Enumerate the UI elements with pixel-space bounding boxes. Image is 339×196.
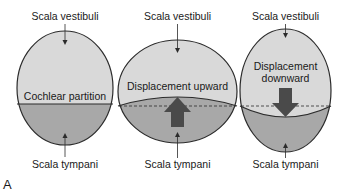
scala-tympani-label: Scala tympani — [253, 158, 319, 170]
panel-resting: Scala vestibuli Cochlear partition Scala… — [0, 0, 120, 170]
panel-displacement-upward: Scala vestibuli Displacement upward Scal… — [110, 0, 245, 196]
cochlear-partition-diagram: Scala vestibuli Cochlear partition Scala… — [0, 0, 339, 196]
displacement-downward-label-line1: Displacement — [254, 60, 318, 72]
scala-tympani-label: Scala tympani — [145, 158, 211, 170]
scala-tympani-region — [0, 104, 120, 164]
panel-label: A — [3, 177, 12, 192]
pointer-arrow-up-icon — [175, 132, 180, 158]
pointer-arrow-down-icon — [175, 24, 180, 53]
cochlear-partition-label: Cochlear partition — [24, 90, 106, 102]
scala-vestibuli-label: Scala vestibuli — [252, 10, 319, 22]
scala-vestibuli-label: Scala vestibuli — [144, 10, 211, 22]
displacement-upward-label: Displacement upward — [127, 80, 228, 92]
displacement-downward-label-line2: downward — [262, 72, 310, 84]
scala-tympani-label: Scala tympani — [32, 158, 98, 170]
scala-vestibuli-label: Scala vestibuli — [31, 10, 98, 22]
panel-displacement-downward: Scala vestibuli Displacement downward Sc… — [236, 0, 336, 196]
